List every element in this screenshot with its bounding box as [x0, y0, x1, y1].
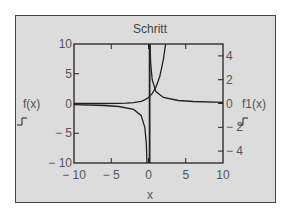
x-axis-label[interactable]: x	[147, 188, 153, 202]
chart-svg: Schritt − 10− 505101050− 5− 10420− 2− 4 …	[0, 0, 287, 219]
right-axis-label[interactable]: f1(x)	[242, 97, 266, 111]
x-tick-label: − 5	[103, 168, 120, 182]
axis-tick-labels: − 10− 505101050− 5− 10420− 2− 4	[48, 37, 243, 182]
x-tick-label: 0	[145, 168, 152, 182]
left-axis-placeholder-icon	[17, 118, 27, 125]
chart-title: Schritt	[133, 22, 168, 36]
right-tick-label: − 4	[226, 144, 243, 158]
left-axis-label[interactable]: f(x)	[23, 97, 40, 111]
x-tick-label: 10	[216, 168, 230, 182]
x-tick-label: − 10	[62, 168, 86, 182]
series-line	[74, 105, 147, 163]
left-tick-label: 5	[65, 67, 72, 81]
right-tick-label: 0	[226, 97, 233, 111]
x-tick-label: 5	[182, 168, 189, 182]
left-tick-label: − 10	[48, 156, 72, 170]
left-tick-label: 0	[65, 97, 72, 111]
left-tick-label: 10	[59, 37, 73, 51]
right-tick-label: 4	[226, 49, 233, 63]
right-tick-label: 2	[226, 73, 233, 87]
left-tick-label: − 5	[55, 126, 72, 140]
right-tick-label: − 2	[226, 120, 243, 134]
data-curves	[74, 44, 223, 163]
